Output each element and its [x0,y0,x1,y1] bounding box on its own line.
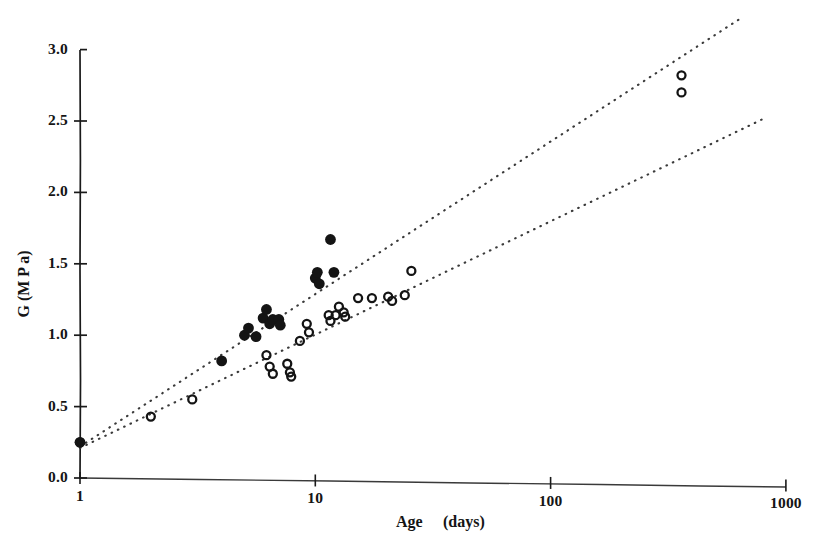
trendlines-layer [80,20,762,448]
axis-layer [74,50,786,492]
y-axis-tick-label: 2.0 [10,182,68,200]
x-axis-tick-label: 100 [516,492,586,510]
data-point-open [262,351,270,359]
data-point-filled [275,320,286,331]
data-point-open [677,71,685,79]
figure-container: 0.00.51.01.52.02.53.0 1101001000 G (M P … [0,0,824,558]
data-point-open [269,370,277,378]
data-point-open [305,328,313,336]
scatter-plot-canvas [0,0,824,558]
x-axis-spine [80,478,786,487]
data-point-open [407,267,415,275]
data-point-filled [314,278,325,289]
data-point-open [354,294,362,302]
y-axis-tick-label: 2.5 [10,111,68,129]
y-axis-tick-label: 0.0 [10,468,68,486]
data-point-open [296,337,304,345]
data-point-filled [216,356,227,367]
data-point-open [368,294,376,302]
data-point-filled [312,267,323,278]
data-points-layer [75,71,686,447]
x-axis-ticks [80,472,786,491]
x-axis-title-units: (days) [443,513,485,531]
data-point-filled [251,331,262,342]
x-axis-tick-label: 1 [45,487,115,505]
data-point-filled [261,304,272,315]
x-axis-tick-label: 1000 [751,494,821,512]
data-point-filled [243,323,254,334]
y-axis-tick-label: 0.5 [10,397,68,415]
lower-trendline [80,120,762,448]
data-point-open [147,413,155,421]
data-point-filled [325,234,336,245]
data-point-open [283,360,291,368]
y-axis-tick-label: 3.0 [10,40,68,58]
upper-trendline [80,20,739,447]
data-point-open [303,320,311,328]
y-axis-title: G (M P a) [15,234,33,334]
data-point-open [401,291,409,299]
data-point-filled [329,267,340,278]
x-axis-tick-label: 10 [280,489,350,507]
x-axis-title: Age [396,513,423,531]
data-point-open [188,395,196,403]
data-point-open [677,88,685,96]
